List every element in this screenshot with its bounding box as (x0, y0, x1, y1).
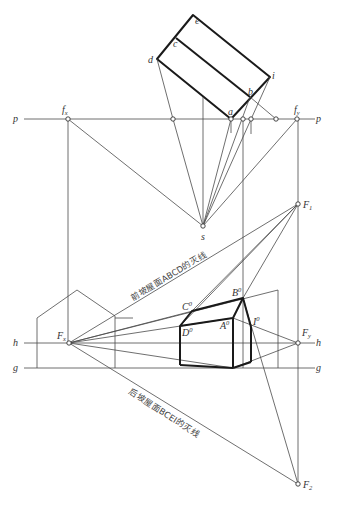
label-c: c (173, 38, 178, 49)
front-roof-annotation: 前坡屋面ABCD的灭线 (129, 249, 209, 302)
label-p-right: p (315, 113, 321, 124)
label-s: s (201, 231, 205, 242)
label-B0: B0 (232, 286, 242, 298)
label-h-left: h (13, 337, 18, 348)
label-g-right: g (316, 362, 321, 373)
label-Fy: Fy (301, 327, 311, 339)
label-e: e (195, 15, 200, 26)
label-d: d (148, 54, 154, 65)
diagram-svg: p p h h g g e c d i b a s fx fy F1 Fx Fy… (0, 0, 338, 506)
label-h-right: h (316, 337, 321, 348)
labels: p p h h g g e c d i b a s fx fy F1 Fx Fy… (12, 15, 321, 491)
label-C0: C0 (182, 300, 193, 312)
side-elevation (37, 290, 115, 368)
label-I0: I0 (252, 315, 260, 327)
perspective-house (180, 298, 251, 368)
plan-ridge-line (176, 38, 250, 97)
label-a: a (228, 106, 233, 117)
back-roof-annotation: 后坡屋面BCEI的灭线 (127, 386, 202, 439)
label-p-left: p (12, 113, 18, 124)
label-fx: fx (62, 104, 68, 116)
label-F2: F2 (302, 479, 313, 491)
label-b: b (248, 86, 253, 97)
label-i: i (272, 70, 275, 81)
label-A0: A0 (219, 319, 230, 331)
label-D0: D0 (181, 326, 193, 338)
label-g-left: g (13, 362, 18, 373)
fx-rays (69, 204, 298, 484)
label-fy: fy (294, 104, 300, 116)
roof-plan (157, 15, 270, 119)
label-F1: F1 (302, 199, 312, 211)
label-Fx: Fx (56, 330, 66, 342)
back-roof-vanishing-line (69, 343, 298, 484)
perspective-diagram: p p h h g g e c d i b a s fx fy F1 Fx Fy… (0, 0, 338, 506)
